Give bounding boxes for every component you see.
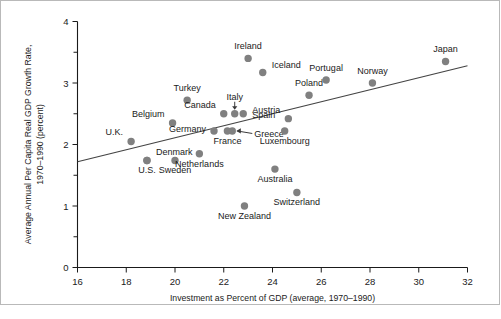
data-point-marker — [231, 110, 238, 117]
data-point-marker — [244, 55, 251, 62]
data-point-label: France — [213, 136, 241, 146]
y-tick-label: 2 — [63, 139, 68, 150]
data-point-label: New Zealand — [218, 211, 271, 221]
data-point-marker — [442, 58, 449, 65]
data-point-marker — [285, 115, 292, 122]
y-tick-label: 4 — [63, 16, 68, 27]
data-point-label: Turkey — [174, 83, 202, 93]
y-axis-title-line2: 1970–1990 (percent) — [35, 104, 45, 185]
x-tick-label: 20 — [170, 276, 181, 287]
data-point-marker — [229, 127, 236, 134]
data-point-label: Belgium — [132, 109, 165, 119]
data-point-label: Austria — [252, 105, 280, 115]
data-point-marker — [271, 165, 278, 172]
data-point-label: U.S. — [138, 165, 156, 175]
data-point-label: Canada — [184, 100, 216, 110]
x-tick-label: 32 — [462, 276, 473, 287]
figure-scatter-plot: 16182022242628303201234Investment as Per… — [0, 0, 501, 319]
data-point-label: Japan — [433, 44, 458, 54]
y-tick-label: 3 — [63, 78, 68, 89]
data-point-label: Australia — [257, 174, 292, 184]
data-point-label: Denmark — [156, 147, 193, 157]
y-axis-title-line1: Average Annual Per Capita Real GDP Growt… — [23, 45, 33, 245]
data-point-marker — [241, 202, 248, 209]
data-point-marker — [210, 127, 217, 134]
plot-canvas: 16182022242628303201234Investment as Per… — [0, 0, 501, 319]
data-point-marker — [259, 69, 266, 76]
x-tick-label: 24 — [267, 276, 278, 287]
data-point-marker — [281, 127, 288, 134]
y-tick-label: 0 — [63, 262, 68, 273]
data-point-label: Germany — [169, 124, 207, 134]
label-leader-arrowhead — [232, 106, 237, 110]
data-point-marker — [127, 138, 134, 145]
data-point-label: Ireland — [234, 41, 262, 51]
data-point-marker — [369, 79, 376, 86]
x-tick-label: 26 — [316, 276, 327, 287]
data-point-marker — [143, 157, 150, 164]
data-point-label: Luxembourg — [260, 136, 310, 146]
data-point-marker — [293, 189, 300, 196]
x-tick-label: 22 — [218, 276, 229, 287]
data-point-marker — [240, 110, 247, 117]
x-tick-label: 18 — [121, 276, 132, 287]
data-point-label: Netherlands — [175, 159, 224, 169]
data-point-label: Norway — [357, 66, 388, 76]
y-tick-label: 1 — [63, 201, 68, 212]
x-tick-label: 28 — [365, 276, 376, 287]
data-point-marker — [305, 92, 312, 99]
data-point-label: Italy — [226, 92, 243, 102]
x-axis-title: Investment as Percent of GDP (average, 1… — [170, 293, 375, 303]
data-point-label: Portugal — [309, 63, 343, 73]
data-point-label: U.K. — [106, 127, 124, 137]
data-point-label: Iceland — [272, 60, 301, 70]
x-tick-label: 16 — [72, 276, 83, 287]
data-point-marker — [196, 150, 203, 157]
x-tick-label: 30 — [413, 276, 424, 287]
data-point-label: Switzerland — [274, 197, 321, 207]
data-point-label: Poland — [295, 78, 323, 88]
data-point-marker — [220, 110, 227, 117]
label-leader-arrowhead — [236, 128, 241, 133]
data-point-marker — [322, 76, 329, 83]
